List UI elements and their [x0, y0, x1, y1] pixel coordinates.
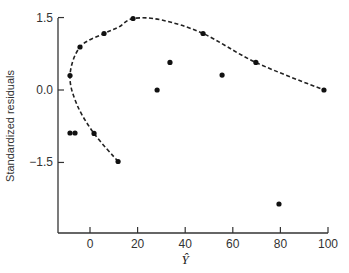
x-tick-label: 100 — [318, 237, 338, 251]
data-point — [91, 131, 96, 136]
axes — [58, 18, 328, 233]
data-point — [72, 130, 77, 135]
x-ticks: 020406080100 — [87, 227, 339, 251]
data-point — [77, 44, 82, 49]
x-tick-label: 40 — [179, 237, 193, 251]
data-point — [101, 31, 106, 36]
y-axis-title: Standardized residuals — [4, 70, 16, 182]
y-tick-label: 0.0 — [36, 83, 53, 97]
x-axis-title: Ŷ — [181, 252, 190, 267]
x-tick-label: 20 — [131, 237, 145, 251]
data-point — [115, 159, 120, 164]
data-point — [130, 16, 135, 21]
y-ticks: 1.50.0−1.5 — [29, 11, 64, 170]
x-tick-label: 0 — [87, 237, 94, 251]
data-points — [67, 16, 326, 207]
residual-plot: 1.50.0−1.5 020406080100 Standardized res… — [0, 0, 349, 273]
y-tick-label: 1.5 — [36, 11, 53, 25]
x-tick-label: 80 — [274, 237, 288, 251]
dashed-trend-curve — [70, 18, 324, 162]
data-point — [219, 72, 224, 77]
y-tick-label: −1.5 — [29, 155, 53, 169]
data-point — [253, 60, 258, 65]
data-point — [321, 87, 326, 92]
data-point — [67, 130, 72, 135]
data-point — [167, 60, 172, 65]
data-point — [155, 87, 160, 92]
data-point — [67, 73, 72, 78]
data-point — [276, 201, 281, 206]
data-point — [200, 31, 205, 36]
x-tick-label: 60 — [226, 237, 240, 251]
